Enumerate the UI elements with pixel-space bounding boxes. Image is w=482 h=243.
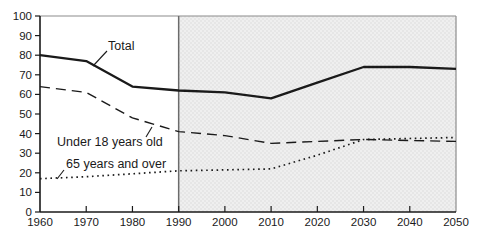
y-axis-tick-label: 100 bbox=[13, 10, 32, 22]
annotation-leader-line bbox=[57, 170, 64, 179]
chart-canvas: 0102030405060708090100196019701980199020… bbox=[0, 0, 482, 243]
population-dependency-chart-figure: 0102030405060708090100196019701980199020… bbox=[0, 0, 482, 243]
y-axis-tick-label: 40 bbox=[19, 128, 32, 140]
x-axis-tick-label: 1970 bbox=[73, 216, 99, 228]
x-axis-tick-label: 2030 bbox=[351, 216, 377, 228]
x-axis-tick-label: 1990 bbox=[166, 216, 192, 228]
x-axis-tick-label: 2020 bbox=[305, 216, 331, 228]
annotation-leader-line bbox=[93, 51, 107, 66]
y-axis-tick-label: 10 bbox=[19, 186, 32, 198]
x-axis-tick-label: 2050 bbox=[443, 216, 469, 228]
x-axis-tick-label: 2040 bbox=[397, 216, 423, 228]
series-label: 65 years and over bbox=[66, 157, 166, 171]
series-label: Under 18 years old bbox=[57, 135, 163, 149]
y-axis-tick-label: 60 bbox=[19, 88, 32, 100]
series-label: Total bbox=[108, 39, 134, 53]
projection-shaded-region bbox=[179, 16, 456, 212]
x-axis-tick-label: 2010 bbox=[258, 216, 284, 228]
y-axis-tick-label: 70 bbox=[19, 69, 32, 81]
y-axis-tick-label: 20 bbox=[19, 167, 32, 179]
y-axis-tick-label: 30 bbox=[19, 147, 32, 159]
y-axis-tick-label: 80 bbox=[19, 49, 32, 61]
x-axis-tick-label: 1960 bbox=[27, 216, 53, 228]
x-axis-tick-label: 2000 bbox=[212, 216, 238, 228]
y-axis-tick-label: 90 bbox=[19, 30, 32, 42]
y-axis-tick-label: 50 bbox=[19, 108, 32, 120]
x-axis-tick-label: 1980 bbox=[120, 216, 146, 228]
